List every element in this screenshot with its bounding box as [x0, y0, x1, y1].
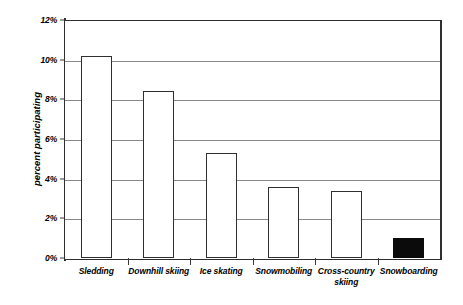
x-axis-label: Sledding [65, 266, 128, 277]
x-axis-label: Cross-country skiing [315, 266, 378, 287]
bar-ice-skating [206, 153, 237, 258]
y-tick-label: 2% [45, 213, 57, 223]
x-axis-label: Snowmobiling [253, 266, 316, 277]
x-axis-ticks [65, 258, 440, 265]
x-tick-mark [253, 258, 254, 265]
x-axis-labels: SleddingDownhill skiingIce skatingSnowmo… [65, 266, 440, 302]
bar-snowmobiling [268, 187, 299, 258]
bar-downhill-skiing [143, 91, 174, 258]
y-tick-label: 10% [41, 55, 57, 65]
x-tick-mark [315, 258, 316, 265]
bar-sledding [81, 56, 112, 258]
x-axis-label: Downhill skiing [128, 266, 191, 277]
x-tick-mark [190, 258, 191, 265]
x-tick-mark [128, 258, 129, 265]
bar-cross-country-skiing [331, 191, 362, 258]
bar-snowboarding [393, 238, 424, 258]
y-tick-label: 6% [45, 134, 57, 144]
y-tick-label: 12% [41, 15, 57, 25]
y-axis-ticks: 0%2%4%6%8%10%12% [34, 20, 60, 258]
y-tick-label: 8% [45, 94, 57, 104]
y-tick-label: 0% [45, 253, 57, 263]
x-axis-label: Snowboarding [378, 266, 441, 277]
x-axis-label: Ice skating [190, 266, 253, 277]
bars-layer [65, 20, 440, 258]
x-tick-mark [378, 258, 379, 265]
y-axis-title-wrapper: percent participating [16, 20, 34, 258]
y-tick-label: 4% [45, 174, 57, 184]
bar-chart: percent participating 0%2%4%6%8%10%12% S… [0, 0, 463, 305]
